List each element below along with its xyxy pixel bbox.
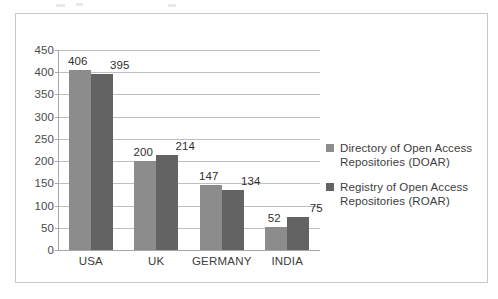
y-tick-label: 400 — [35, 66, 55, 78]
bar-chart-figure: 450400350300250200150100500 406395200214… — [15, 13, 488, 283]
clipped-top-artifacts — [0, 0, 498, 11]
y-tick-label: 50 — [41, 222, 54, 234]
bar — [200, 185, 222, 250]
y-tick-label: 200 — [35, 155, 55, 167]
y-tick-label: 100 — [35, 200, 55, 212]
x-axis: USAUKGERMANYINDIA — [58, 255, 320, 275]
x-tick-label: USA — [79, 255, 103, 267]
bar-value-label: 52 — [268, 212, 281, 224]
bar-value-label: 395 — [110, 59, 130, 71]
gridline — [59, 250, 320, 251]
bar — [134, 161, 156, 250]
bar-value-label: 75 — [310, 202, 323, 214]
y-tick-label: 350 — [35, 88, 55, 100]
legend-entry: Directory of Open Access Repositories (D… — [326, 141, 481, 169]
legend-swatch-icon — [326, 144, 334, 152]
bar — [222, 190, 244, 250]
bar — [91, 74, 113, 250]
legend-label: Registry of Open Access Repositories (RO… — [340, 180, 481, 208]
bar-value-label: 134 — [241, 175, 261, 187]
bar-value-label: 200 — [134, 146, 154, 158]
bar — [287, 217, 309, 250]
y-tick-label: 450 — [35, 44, 55, 56]
bar-value-label: 406 — [68, 55, 88, 67]
x-tick-label: GERMANY — [192, 255, 252, 267]
legend-entry: Registry of Open Access Repositories (RO… — [326, 180, 481, 208]
x-tick-label: UK — [148, 255, 164, 267]
bar-value-label: 214 — [176, 140, 196, 152]
bar — [156, 155, 178, 250]
y-tick-label: 300 — [35, 111, 55, 123]
bar — [265, 227, 287, 250]
y-tick-label: 250 — [35, 133, 55, 145]
y-axis: 450400350300250200150100500 — [16, 50, 54, 250]
y-tick-mark — [55, 250, 59, 251]
legend-label: Directory of Open Access Repositories (D… — [340, 141, 481, 169]
y-tick-label: 150 — [35, 177, 55, 189]
plot-area: 4063952002141471345275 — [58, 50, 320, 250]
chart-legend: Directory of Open Access Repositories (D… — [326, 141, 481, 219]
legend-swatch-icon — [326, 183, 334, 191]
x-tick-label: INDIA — [271, 255, 303, 267]
bars-layer: 4063952002141471345275 — [58, 50, 320, 250]
bar-value-label: 147 — [199, 170, 219, 182]
y-tick-label: 0 — [48, 244, 55, 256]
bar — [69, 70, 91, 250]
